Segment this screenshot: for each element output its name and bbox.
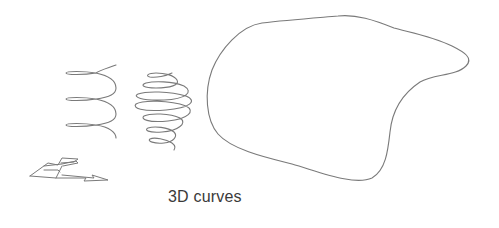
- freeform-closed-curve: [207, 16, 469, 181]
- 3d-curves-figure: 3D curves: [0, 0, 499, 228]
- figure-caption: 3D curves: [168, 188, 242, 206]
- spherical-spiral-curve: [135, 73, 191, 150]
- axes-arrow-icon: [30, 158, 108, 181]
- curves-canvas: [0, 0, 499, 228]
- helix-curve: [66, 65, 116, 138]
